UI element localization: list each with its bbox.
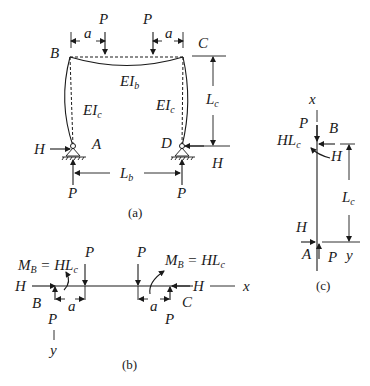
node-label-b: B [329,120,338,136]
label-ei-b: EIb [119,73,139,91]
figure-a-portal-frame: P P a a B C A D EIb EIc EIc Lc H H [33,11,230,220]
label-p-bottom-left: P [47,311,57,327]
label-p-top-left: P [98,11,108,27]
label-a-left: a [68,298,76,314]
figure-b-beam-free-body: x H H MB = HLc MB = HLc P P a a B C P P [14,244,250,372]
label-a-right: a [150,298,158,314]
node-label-a: A [91,136,102,152]
label-h-left: H [33,141,46,157]
label-p-top-left: P [84,244,94,260]
label-y-axis: y [344,247,353,263]
node-label-b: B [32,295,41,311]
label-lb: Lb [119,165,133,183]
label-h-right: H [211,155,224,171]
label-h-top: H [330,148,343,164]
label-a-right: a [165,25,173,41]
node-label-c: C [182,294,193,310]
node-label-b: B [50,45,59,61]
label-x-axis: x [308,91,316,107]
label-lc: Lc [205,91,219,109]
label-ei-c-left: EIc [82,102,102,120]
label-p-bottom-right: P [176,185,186,201]
label-p-bottom-left: P [67,185,77,201]
moment-arrow-mb-left [64,272,69,290]
deflected-right-column [182,57,188,146]
moment-arrow-hlc [311,148,330,158]
deflected-left-column [65,57,73,146]
node-label-a: A [301,246,312,262]
label-hlc: HLc [276,132,301,150]
moment-arrow-mb-right [150,271,164,294]
label-a-left: a [84,25,92,41]
label-h-bottom: H [295,219,308,235]
structural-frame-diagram: P P a a B C A D EIb EIc EIc Lc H H [0,0,370,386]
label-mb-right: MB = HLc [164,252,225,270]
label-p-bottom: P [327,249,337,265]
label-p-top-right: P [136,244,146,260]
deflected-beam [70,57,183,66]
label-ei-c-right: EIc [155,97,175,115]
label-p-top: P [298,115,308,131]
figure-c-column-free-body: x P B HLc H Lc H A P y (c) [276,91,360,293]
pin-support-a [62,144,86,161]
label-x-axis: x [242,278,250,294]
label-p-bottom-right: P [164,311,174,327]
caption-b: (b) [122,357,137,372]
caption-c: (c) [316,278,330,293]
undeformed-left-column [70,57,73,146]
undeformed-right-column [182,57,183,146]
label-p-top-right: P [142,11,152,27]
label-h-right: H [192,278,205,294]
label-lc: Lc [341,189,355,207]
label-h-left: H [14,278,27,294]
label-mb-left: MB = HLc [17,257,78,275]
caption-a: (a) [128,205,142,220]
label-y-axis: y [48,342,57,358]
node-label-c: C [198,35,209,51]
node-label-d: D [160,135,172,151]
